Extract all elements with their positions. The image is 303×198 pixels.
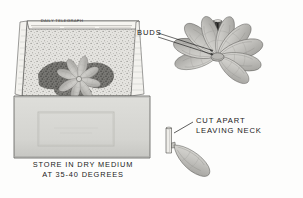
newspaper-masthead: DAILY TELEGRAPH <box>31 18 93 24</box>
illustration-canvas: DAILY TELEGRAPH BUDS CUT APART LEAVING N… <box>0 0 303 198</box>
box-front-face <box>14 96 150 158</box>
caption-store-line2: AT 35-40 DEGREES <box>22 170 144 180</box>
cut-apart-leader-line <box>174 122 193 133</box>
caption-store-instructions: STORE IN DRY MEDIUM AT 35-40 DEGREES <box>22 160 144 180</box>
label-cut-apart-line1: CUT APART <box>196 116 262 126</box>
storage-box-group <box>14 21 150 158</box>
label-buds: BUDS <box>137 28 162 38</box>
caption-store-line1: STORE IN DRY MEDIUM <box>22 160 144 170</box>
label-cut-apart: CUT APART LEAVING NECK <box>196 116 262 137</box>
box-interior <box>15 21 144 102</box>
scaled-bulb-group <box>158 14 265 88</box>
detached-scale <box>168 139 214 182</box>
label-cut-apart-line2: LEAVING NECK <box>196 126 262 136</box>
